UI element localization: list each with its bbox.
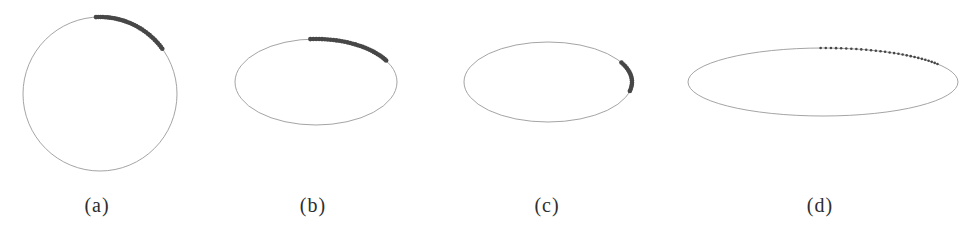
arc-dot: [879, 50, 882, 53]
arc-dot: [921, 58, 924, 61]
arc-dot: [855, 48, 858, 51]
ellipse-figure: (a) (b) (c) (d): [0, 0, 980, 227]
arc-dot: [897, 53, 900, 56]
dot-arc-c: [619, 60, 634, 93]
arc-dot: [840, 47, 843, 50]
arc-dot: [824, 47, 827, 50]
arc-dot: [913, 56, 916, 59]
arc-dot: [830, 47, 833, 50]
arc-dot: [930, 61, 933, 64]
arc-dot: [835, 47, 838, 50]
arc-dot: [917, 57, 920, 60]
arc-dot: [870, 49, 873, 52]
arc-dot: [933, 62, 936, 65]
arc-dot: [875, 49, 878, 52]
arc-dot: [924, 59, 927, 62]
arc-dot: [845, 47, 848, 50]
arc-dot: [308, 37, 313, 42]
arc-dot: [884, 51, 887, 54]
ellipses-canvas: [0, 0, 980, 227]
arc-dot: [94, 15, 99, 20]
dot-arc-b: [308, 37, 388, 63]
arc-dot: [909, 55, 912, 58]
panel-a: [23, 15, 177, 171]
arc-dot: [936, 63, 939, 66]
arc-dot: [619, 60, 624, 65]
arc-dot: [819, 47, 822, 50]
arc-dot: [850, 47, 853, 50]
panel-c: [464, 42, 634, 122]
arc-dot: [905, 54, 908, 57]
arc-dot: [893, 52, 896, 55]
dot-arc-a: [94, 15, 165, 51]
panel-b: [235, 37, 397, 125]
arc-dot: [865, 48, 868, 51]
dot-arc-d: [819, 47, 938, 66]
arc-dot: [901, 53, 904, 56]
panel-d: [688, 47, 958, 116]
ellipse-outline-c: [464, 42, 632, 122]
arc-dot: [888, 51, 891, 54]
arc-dot: [860, 48, 863, 51]
arc-dot: [927, 60, 930, 63]
